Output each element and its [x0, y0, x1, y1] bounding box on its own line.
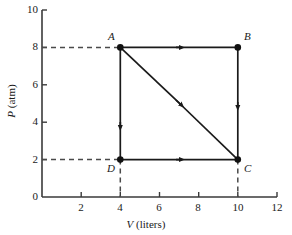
point-label-b: B — [244, 31, 251, 42]
pv-diagram-figure: 10 8 6 4 2 0 2 4 6 8 10 12 V (liters) P … — [0, 0, 292, 235]
point-label-c: C — [244, 163, 251, 174]
point-b — [235, 44, 242, 51]
x-tick-label-4: 4 — [110, 202, 130, 213]
x-tick-label-10: 10 — [228, 202, 248, 213]
point-c — [235, 156, 242, 163]
y-axis-title-var: P — [5, 111, 17, 118]
segment-a-to-c-head — [120, 47, 182, 105]
point-label-a: A — [108, 31, 115, 42]
y-axis-title-wrap: P (atm) — [1, 71, 19, 131]
x-tick-label-8: 8 — [188, 202, 208, 213]
y-tick-label-0: 0 — [22, 191, 38, 202]
guide-lines — [42, 47, 238, 197]
x-axis-title: V (liters) — [0, 219, 292, 230]
point-d — [117, 156, 124, 163]
y-axis-title-unit: (atm) — [5, 84, 17, 111]
process-paths — [120, 47, 238, 159]
axis-lines — [42, 10, 277, 197]
x-axis-title-unit: (liters) — [133, 218, 165, 230]
y-axis-title: P (atm) — [5, 84, 17, 117]
y-tick-label-10: 10 — [22, 4, 38, 15]
x-tick-label-6: 6 — [149, 202, 169, 213]
y-tick-label-4: 4 — [22, 116, 38, 127]
segment-a-to-c-tail — [176, 100, 238, 160]
point-a — [117, 44, 124, 51]
x-tick-label-12: 12 — [267, 202, 287, 213]
point-label-d: D — [107, 163, 115, 174]
y-tick-label-8: 8 — [22, 41, 38, 52]
x-tick-label-2: 2 — [71, 202, 91, 213]
y-tick-label-2: 2 — [22, 154, 38, 165]
y-tick-label-6: 6 — [22, 79, 38, 90]
